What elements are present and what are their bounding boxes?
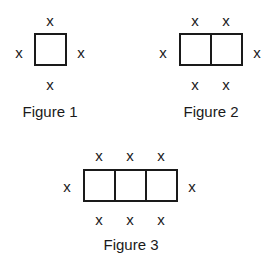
left-x-mark: x (60, 179, 74, 194)
top-x-mark: x (188, 13, 202, 28)
unit-square (116, 171, 147, 200)
right-x-mark: x (74, 45, 88, 60)
bottom-x-mark: x (219, 77, 233, 92)
figure-3-caption: Figure 3 (103, 236, 158, 253)
figure-1-square (34, 33, 67, 66)
top-x-mark: x (154, 148, 168, 163)
bottom-x-mark: x (188, 77, 202, 92)
right-x-mark: x (250, 45, 264, 60)
figure-2-rectangle (179, 33, 243, 66)
top-x-mark: x (123, 148, 137, 163)
bottom-x-mark: x (154, 212, 168, 227)
unit-square (181, 35, 212, 64)
unit-square (85, 171, 116, 200)
left-x-mark: x (156, 45, 170, 60)
right-x-mark: x (185, 179, 199, 194)
top-x-mark: x (219, 13, 233, 28)
left-x-mark: x (12, 45, 26, 60)
top-x-mark: x (43, 13, 57, 28)
figure-3-rectangle (83, 169, 178, 202)
top-x-mark: x (92, 148, 106, 163)
unit-square (36, 35, 65, 64)
bottom-x-mark: x (123, 212, 137, 227)
figure-2-caption: Figure 2 (183, 103, 238, 120)
bottom-x-mark: x (92, 212, 106, 227)
figure-1-caption: Figure 1 (22, 103, 77, 120)
bottom-x-mark: x (43, 77, 57, 92)
unit-square (147, 171, 176, 200)
unit-square (212, 35, 241, 64)
